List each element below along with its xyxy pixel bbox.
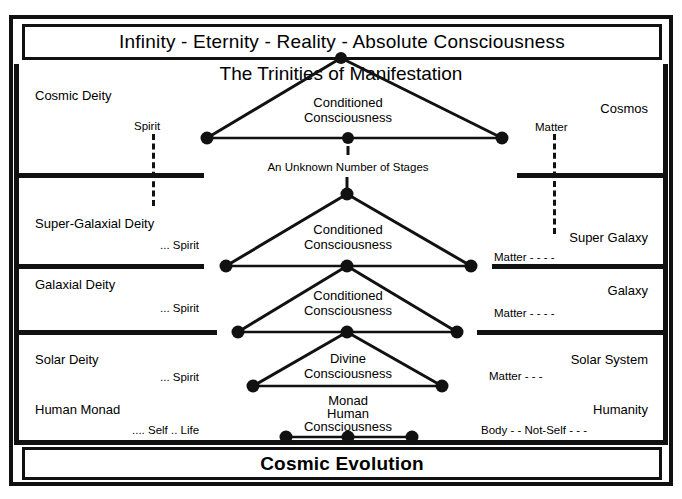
top-banner-text: Infinity - Eternity - Reality - Absolute… bbox=[119, 31, 565, 53]
aspect-human-left: .... Self .. Life bbox=[132, 423, 199, 438]
tier-label-solar-left: Solar Deity bbox=[35, 352, 99, 367]
aspect-supergalaxial-right: Matter - - - - bbox=[494, 250, 555, 265]
spirit-axis-dashed-line bbox=[152, 134, 155, 206]
diagram-canvas: Infinity - Eternity - Reality - Absolute… bbox=[0, 0, 682, 499]
rail-cosmic-right bbox=[517, 173, 668, 178]
rail-supergalaxial-left bbox=[14, 264, 204, 269]
tier-label-human-left: Human Monad bbox=[35, 402, 120, 417]
tier-label-cosmic-right: Cosmos bbox=[530, 101, 648, 116]
aspect-supergalaxial-left: ... Spirit bbox=[160, 238, 199, 253]
center-caption-galaxial-line2: Consciousness bbox=[288, 303, 408, 318]
bottom-banner: Cosmic Evolution bbox=[22, 447, 662, 480]
center-caption-cosmic-line1: Conditioned bbox=[288, 95, 408, 110]
bottom-banner-text: Cosmic Evolution bbox=[260, 453, 424, 475]
page-title: The Trinities of Manifestation bbox=[0, 63, 682, 85]
tier-label-supergalaxial-left: Super-Galaxial Deity bbox=[35, 216, 154, 231]
tier-label-galaxial-right: Galaxy bbox=[530, 283, 648, 298]
tier-label-cosmic-left: Cosmic Deity bbox=[35, 88, 112, 103]
tier-label-supergalaxial-right: Super Galaxy bbox=[530, 230, 648, 245]
rail-galaxial-left bbox=[14, 330, 217, 335]
matter-axis-header: Matter bbox=[535, 120, 568, 135]
rail-solar-bottom bbox=[14, 440, 668, 445]
top-banner: Infinity - Eternity - Reality - Absolute… bbox=[22, 24, 662, 60]
center-caption-supergalaxial-line1: Conditioned bbox=[288, 222, 408, 237]
tier-label-galaxial-left: Galaxial Deity bbox=[35, 277, 115, 292]
rail-cosmic-left bbox=[14, 173, 204, 178]
rail-galaxial-right bbox=[477, 330, 668, 335]
center-caption-galaxial-line1: Conditioned bbox=[288, 288, 408, 303]
aspect-human-right: Body - - Not-Self - - - bbox=[481, 423, 587, 438]
aspect-solar-right: Matter - - - bbox=[489, 369, 543, 384]
center-caption-human-line3: Consciousness bbox=[288, 419, 408, 434]
matter-axis-dashed-line bbox=[553, 134, 556, 234]
center-caption-solar-line2: Consciousness bbox=[288, 366, 408, 381]
center-caption-cosmic-line2: Consciousness bbox=[288, 110, 408, 125]
aspect-solar-left: ... Spirit bbox=[160, 370, 199, 385]
annotation-unknown-stages: An Unknown Number of Stages bbox=[243, 160, 453, 175]
center-caption-supergalaxial-line2: Consciousness bbox=[288, 237, 408, 252]
tier-label-solar-right: Solar System bbox=[515, 352, 648, 367]
aspect-galaxial-right: Matter - - - - bbox=[494, 306, 555, 321]
center-caption-solar-line1: Divine bbox=[288, 351, 408, 366]
aspect-galaxial-left: ... Spirit bbox=[160, 301, 199, 316]
spirit-axis-header: Spirit bbox=[134, 119, 160, 134]
tier-label-human-right: Humanity bbox=[530, 402, 648, 417]
